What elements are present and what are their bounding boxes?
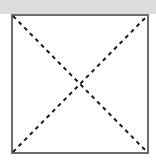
square-diagonals-diagram — [0, 0, 156, 162]
figure-container — [0, 0, 156, 162]
